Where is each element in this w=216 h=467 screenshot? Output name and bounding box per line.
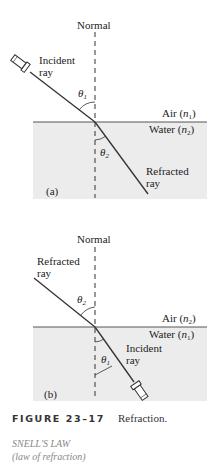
refraction-diagram: Normal Incident ray θ1 Air (n1) Water (n… [0,0,216,467]
margin-note-subtitle: (law of refraction) [12,451,86,462]
incident-label-a: Incident [39,54,75,66]
refracted-label-a-2: ray [146,177,161,189]
incident-label-a-2: ray [39,66,54,78]
theta1-arc-a [79,102,95,110]
panel-a: Normal Incident ray θ1 Air (n1) Water (n… [10,19,207,199]
refracted-label-b-2: ray [37,267,52,279]
refracted-label-a: Refracted [146,165,189,177]
panel-letter-a: (a) [46,185,59,198]
incident-label-b-2: ray [126,354,141,366]
theta2-arc-b [81,307,95,315]
normal-label-b: Normal [77,233,111,245]
theta2-label-b: θ2 [77,293,86,307]
panel-letter-b: (b) [44,388,57,401]
refracted-label-b: Refracted [37,255,80,267]
normal-label-a: Normal [77,19,111,31]
incident-label-b: Incident [126,342,162,354]
air-label-a: Air (n1) [162,107,196,121]
margin-note-title: SNELL'S LAW [12,438,70,449]
theta1-label-a: θ1 [78,87,87,101]
figure-number: FIGURE 23–17 [12,413,105,424]
panel-b: Normal Refracted ray θ2 Air (n2) Water (… [33,233,207,401]
flashlight-icon [10,54,30,73]
air-label-b: Air (n2) [162,312,196,326]
figure-title: Refraction. [118,412,167,424]
